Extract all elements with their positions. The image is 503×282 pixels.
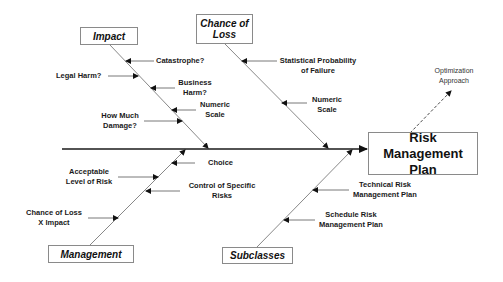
cause-choice: Choice xyxy=(208,158,233,168)
category-subclasses-label: Subclasses xyxy=(230,250,285,261)
cause-text: X Impact xyxy=(24,218,84,228)
category-chance-of-loss-label-1: Chance of xyxy=(200,18,248,29)
cause-text: Business xyxy=(177,78,213,88)
cause-text: Scale xyxy=(198,110,232,120)
cause-statistical-probability: Statistical Probability of Failure xyxy=(278,56,358,76)
optimization-approach-label: Optimization Approach xyxy=(425,66,483,86)
category-subclasses-box: Subclasses xyxy=(222,247,293,264)
cause-text: Harm? xyxy=(177,88,213,98)
category-chance-of-loss-box: Chance of Loss xyxy=(196,14,253,44)
cause-text: Numeric xyxy=(310,95,344,105)
effect-label-1: Risk Management xyxy=(369,130,477,162)
cause-legal-harm: Legal Harm? xyxy=(56,71,101,81)
cause-text: Catastrophe? xyxy=(156,56,204,66)
effect-label-2: Plan xyxy=(409,162,436,178)
cause-business-harm: Business Harm? xyxy=(177,78,213,98)
optimization-text: Optimization xyxy=(425,66,483,76)
cause-numeric-scale-impact: Numeric Scale xyxy=(198,100,232,120)
management-bone xyxy=(90,150,185,245)
category-management-box: Management xyxy=(48,245,134,263)
optimization-text: Approach xyxy=(425,76,483,86)
category-impact-box: Impact xyxy=(80,27,138,45)
cause-how-much-damage: How Much Damage? xyxy=(98,111,142,131)
category-management-label: Management xyxy=(60,249,121,260)
cause-text: Level of Risk xyxy=(64,177,114,187)
cause-text: Damage? xyxy=(98,121,142,131)
cause-text: Legal Harm? xyxy=(56,71,101,81)
cause-catastrophe: Catastrophe? xyxy=(156,56,204,66)
cause-text: Numeric xyxy=(198,100,232,110)
cause-text: Technical Risk xyxy=(352,180,418,190)
cause-control-specific-risks: Control of Specific Risks xyxy=(185,181,259,201)
cause-text: Control of Specific xyxy=(185,181,259,191)
cause-text: How Much xyxy=(98,111,142,121)
cause-schedule-risk-plan: Schedule Risk Management Plan xyxy=(318,210,384,230)
category-impact-label: Impact xyxy=(93,31,125,42)
cause-text: Schedule Risk xyxy=(318,210,384,220)
cause-text: Chance of Loss xyxy=(24,208,84,218)
cause-technical-risk-plan: Technical Risk Management Plan xyxy=(352,180,418,200)
cause-text: Management Plan xyxy=(318,220,384,230)
cause-text: of Failure xyxy=(278,66,358,76)
cause-acceptable-level: Acceptable Level of Risk xyxy=(64,167,114,187)
effect-box: Risk Management Plan xyxy=(368,132,478,175)
cause-chance-x-impact: Chance of Loss X Impact xyxy=(24,208,84,228)
category-chance-of-loss-label-2: Loss xyxy=(213,29,236,40)
cause-text: Choice xyxy=(208,158,233,168)
cause-text: Management Plan xyxy=(352,190,418,200)
optimization-arrow xyxy=(410,91,451,133)
cause-text: Acceptable xyxy=(64,167,114,177)
cause-text: Risks xyxy=(185,191,259,201)
subclasses-bone xyxy=(257,150,352,247)
cause-text: Statistical Probability xyxy=(278,56,358,66)
cause-text: Scale xyxy=(310,105,344,115)
cause-numeric-scale-chance: Numeric Scale xyxy=(310,95,344,115)
